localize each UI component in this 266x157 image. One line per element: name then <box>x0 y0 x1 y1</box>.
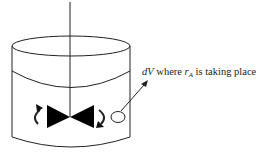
label-where: where <box>154 66 185 77</box>
volume-element-label: dV where rA is taking place <box>142 66 256 79</box>
pointer-arrowhead <box>141 80 148 87</box>
tank-top-rim <box>12 36 130 56</box>
label-dV: dV <box>142 66 154 77</box>
label-rest: is taking place <box>193 66 256 77</box>
liquid-surface <box>12 71 130 88</box>
impeller-blade-right <box>70 105 94 128</box>
rotation-arrow-right <box>99 110 104 124</box>
volume-element-dV <box>111 112 125 123</box>
tank-bottom <box>12 137 130 147</box>
pointer-arrow-line <box>121 85 144 111</box>
rotation-arrow-left <box>35 110 40 124</box>
impeller-blade-left <box>47 105 70 128</box>
